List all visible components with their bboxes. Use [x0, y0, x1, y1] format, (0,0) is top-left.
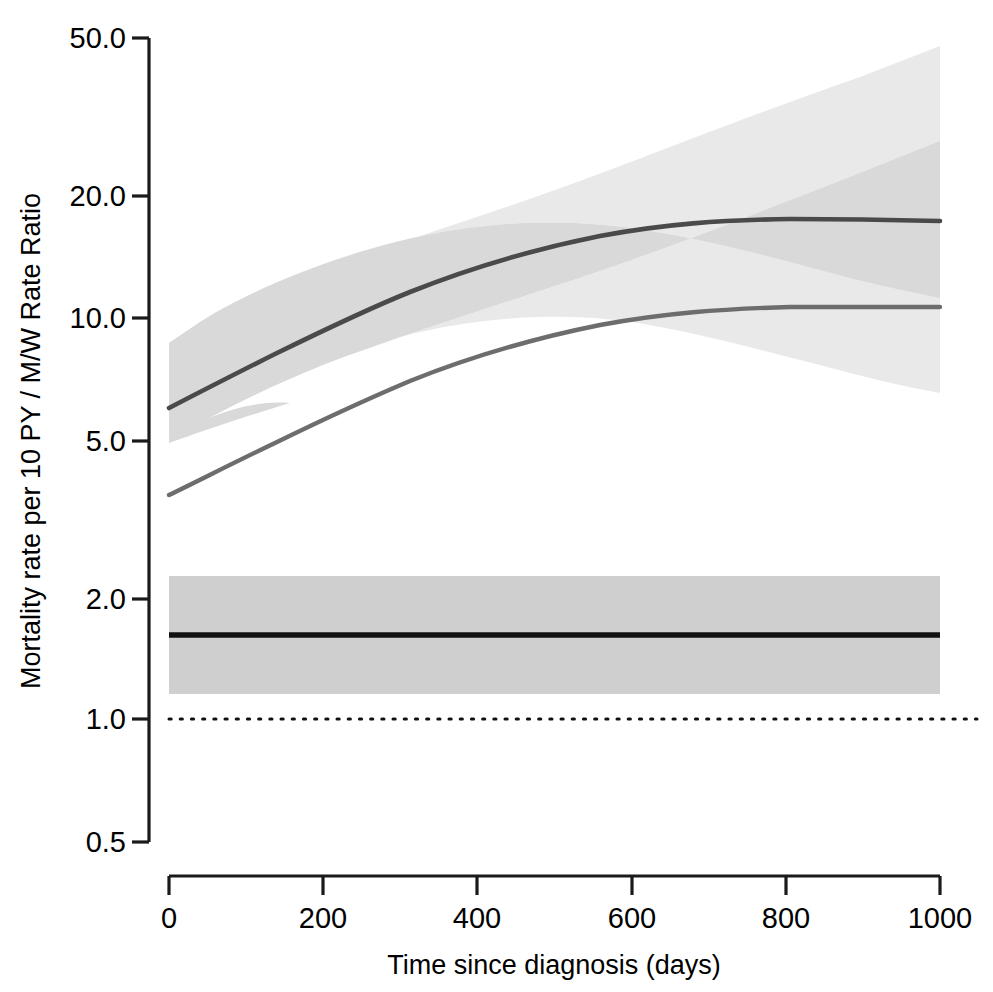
y-axis-title: Mortality rate per 10 PY / M/W Rate Rati…	[16, 193, 46, 689]
x-tick-label-600: 600	[608, 902, 656, 934]
x-tick-label-1000: 1000	[908, 902, 973, 934]
x-tick-label-800: 800	[762, 902, 810, 934]
y-tick-label-05: 0.5	[86, 826, 126, 858]
y-tick-marks	[132, 38, 149, 842]
x-axis-title: Time since diagnosis (days)	[387, 950, 721, 980]
x-axis: 0 200 400 600 800 1000 Time since diagno…	[161, 876, 972, 980]
y-tick-label-20: 20.0	[70, 180, 126, 212]
chart-figure: 50.0 20.0 10.0 5.0 2.0 1.0 0.5 Mortality…	[0, 0, 993, 992]
x-tick-marks	[169, 876, 940, 895]
x-tick-label-400: 400	[453, 902, 501, 934]
y-tick-label-2: 2.0	[86, 583, 126, 615]
y-tick-label-1: 1.0	[86, 703, 126, 735]
y-tick-label-10: 10.0	[70, 302, 126, 334]
chart-svg: 50.0 20.0 10.0 5.0 2.0 1.0 0.5 Mortality…	[0, 0, 993, 992]
y-tick-label-50: 50.0	[70, 22, 126, 54]
y-axis: 50.0 20.0 10.0 5.0 2.0 1.0 0.5 Mortality…	[16, 22, 149, 858]
x-tick-label-200: 200	[299, 902, 347, 934]
y-tick-label-5: 5.0	[86, 425, 126, 457]
confidence-bands	[169, 46, 940, 694]
x-tick-label-0: 0	[161, 902, 177, 934]
